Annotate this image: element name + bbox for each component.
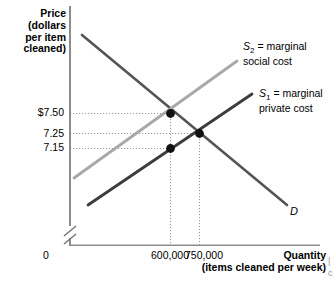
y-tick-label-715: 7.15 [18,142,64,154]
point-d-meets-s1 [195,129,204,138]
y-axis-title-line1: Price [40,7,66,19]
curve-label-s2: S2 = marginalsocial cost [243,41,307,68]
point-d-meets-s2 [166,109,175,118]
curve-label-s1-symbol: S [259,87,266,99]
curve-label-s1-rest: = marginal [270,87,322,99]
curve-label-s1-line2: private cost [259,102,313,114]
x-axis-title-line1: Quantity [283,249,326,261]
curve-label-demand: D [290,205,298,217]
marked-points [166,109,204,153]
y-tick-label-725: 7.25 [18,128,64,140]
y-tick-label-750: $7.50 [18,107,64,119]
x-axis-title-line2: (items cleaned per week) [202,261,326,273]
axis-break-slash-upper [64,226,76,236]
point-s1-at-600000 [166,144,175,153]
y-axis-title: Price(dollarsper itemcleaned) [4,8,66,55]
x-tick-label-zero: 0 [36,250,56,262]
x-axis-title: Quantity(items cleaned per week) [186,250,326,274]
curve-label-s1: S1 = marginalprivate cost [259,88,323,115]
externality-supply-demand-chart: Price(dollarsper itemcleaned) $7.50 7.25… [0,0,334,291]
y-axis-title-line4: cleaned) [23,42,66,54]
y-axis-title-line3: per item [25,31,66,43]
curve-label-s2-line2: social cost [243,55,292,67]
curve-label-s2-symbol: S [243,40,250,52]
edge-marginalia-text: | c [328,255,333,279]
y-axis-title-line2: (dollars [28,19,66,31]
curve-label-s2-rest: = marginal [254,40,306,52]
